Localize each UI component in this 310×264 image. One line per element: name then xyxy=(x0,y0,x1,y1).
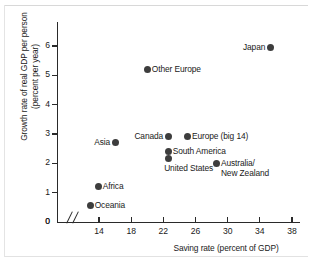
data-point-australia-new-zealand xyxy=(213,160,220,167)
x-tick-38 xyxy=(291,217,292,223)
data-point-other-europe xyxy=(144,66,151,73)
data-point-europe-big-14 xyxy=(184,133,191,140)
data-label-oceania: Oceania xyxy=(95,200,126,210)
x-tick-label-38: 38 xyxy=(282,226,302,236)
x-tick-label-34: 34 xyxy=(250,226,270,236)
scan-border-top xyxy=(4,5,308,6)
x-tick-30 xyxy=(227,217,228,223)
data-label-africa: Africa xyxy=(103,181,124,191)
x-tick-34 xyxy=(259,217,260,223)
x-axis-line xyxy=(57,222,300,223)
y-tick-label-6: 6 xyxy=(36,40,50,50)
y-tick-label-2: 2 xyxy=(36,157,50,167)
x-axis-break-icon xyxy=(66,211,82,224)
y-tick-6 xyxy=(52,45,58,46)
data-point-south-america xyxy=(165,148,172,155)
data-point-united-states xyxy=(165,155,172,162)
x-tick-22 xyxy=(163,217,164,223)
scan-border-bottom xyxy=(4,256,308,257)
data-label-other-europe: Other Europe xyxy=(152,64,201,74)
data-label-asia: Asia xyxy=(3,137,110,147)
x-tick-18 xyxy=(131,217,132,223)
scan-border-left xyxy=(4,5,5,257)
data-label-australia-new-zealand: Australia/ New Zealand xyxy=(221,158,269,178)
axis-origin-label: 0 xyxy=(36,216,50,226)
y-tick-label-4: 4 xyxy=(36,99,50,109)
data-label-south-america: South America xyxy=(173,146,226,156)
x-tick-label-22: 22 xyxy=(153,226,173,236)
data-label-japan: Japan xyxy=(158,42,265,52)
data-point-japan xyxy=(267,44,274,51)
y-tick-label-1: 1 xyxy=(36,187,50,197)
data-point-oceania xyxy=(87,202,94,209)
scatter-chart-figure: Growth rate of real GDP per person (perc… xyxy=(0,0,310,264)
x-tick-label-30: 30 xyxy=(218,226,238,236)
y-tick-1 xyxy=(52,192,58,193)
y-tick-2 xyxy=(52,163,58,164)
y-tick-label-5: 5 xyxy=(36,69,50,79)
x-tick-label-26: 26 xyxy=(186,226,206,236)
x-tick-26 xyxy=(195,217,196,223)
x-tick-label-18: 18 xyxy=(121,226,141,236)
data-point-canada xyxy=(165,133,172,140)
y-tick-5 xyxy=(52,75,58,76)
x-tick-14 xyxy=(98,217,99,223)
data-point-asia xyxy=(112,139,119,146)
x-tick-label-14: 14 xyxy=(89,226,109,236)
y-tick-4 xyxy=(52,104,58,105)
data-label-europe-big-14: Europe (big 14) xyxy=(192,131,248,141)
data-point-africa xyxy=(95,183,102,190)
x-axis-title: Saving rate (percent of GDP) xyxy=(150,243,302,253)
data-label-united-states: United States xyxy=(164,163,213,173)
